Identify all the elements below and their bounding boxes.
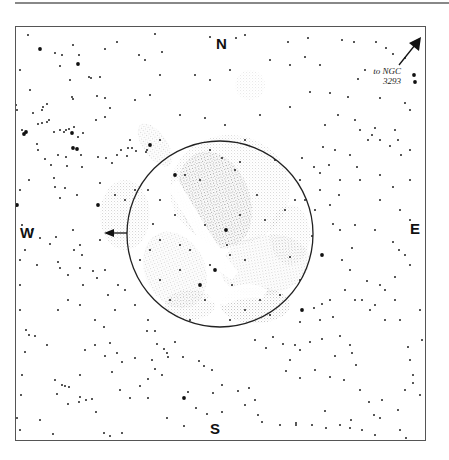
- star: [379, 97, 381, 99]
- star: [50, 164, 52, 166]
- star: [307, 37, 309, 39]
- star: [36, 264, 38, 266]
- star: [111, 162, 113, 164]
- star: [66, 165, 68, 167]
- star: [53, 177, 55, 179]
- star: [27, 34, 29, 36]
- star: [206, 413, 208, 415]
- star: [349, 427, 351, 429]
- star: [159, 139, 161, 141]
- star: [72, 229, 74, 231]
- star: [104, 97, 106, 99]
- star: [332, 316, 334, 318]
- star: [409, 179, 411, 181]
- star: [235, 37, 237, 39]
- star: [88, 76, 90, 78]
- star: [375, 41, 377, 43]
- star: [265, 347, 267, 349]
- star: [127, 147, 129, 149]
- star: [404, 389, 406, 391]
- star: [24, 351, 26, 353]
- star: [152, 223, 154, 225]
- star: [329, 299, 331, 301]
- star: [239, 161, 241, 163]
- star: [279, 294, 281, 296]
- star: [169, 299, 171, 301]
- star: [313, 307, 315, 309]
- star: [289, 106, 291, 108]
- star: [131, 147, 133, 149]
- star: [179, 244, 181, 246]
- star: [146, 149, 148, 151]
- star: [104, 116, 106, 118]
- star: [349, 154, 351, 156]
- star: [229, 319, 231, 321]
- nebula-patch: [270, 205, 310, 265]
- star: [289, 359, 291, 361]
- star: [354, 119, 356, 121]
- star: [37, 123, 39, 125]
- star: [37, 149, 39, 151]
- star: [309, 341, 311, 343]
- star: [174, 214, 176, 216]
- star: [282, 343, 284, 345]
- star: [198, 360, 200, 362]
- star: [107, 294, 109, 296]
- star: [124, 199, 126, 201]
- west-label: W: [20, 224, 34, 241]
- star: [121, 432, 123, 434]
- star: [329, 204, 331, 206]
- star: [90, 77, 92, 79]
- star: [379, 139, 381, 141]
- star: [384, 319, 386, 321]
- star: [129, 397, 131, 399]
- star: [138, 54, 140, 56]
- star: [76, 62, 80, 66]
- star: [103, 326, 105, 328]
- star: [134, 304, 136, 306]
- star: [95, 119, 97, 121]
- nebula-patch: [100, 180, 150, 250]
- star: [295, 424, 297, 426]
- star: [16, 109, 18, 111]
- north-label: N: [216, 35, 227, 52]
- star: [409, 264, 411, 266]
- star: [289, 64, 291, 66]
- star: [69, 79, 71, 81]
- star: [319, 189, 321, 191]
- star: [351, 247, 353, 249]
- star: [36, 143, 38, 145]
- star: [379, 417, 381, 419]
- star: [159, 199, 161, 201]
- star: [159, 239, 161, 241]
- star: [134, 99, 136, 101]
- star: [371, 134, 373, 136]
- star: [367, 139, 369, 141]
- star: [359, 179, 361, 181]
- star: [147, 378, 149, 380]
- star: [99, 182, 101, 184]
- star: [329, 376, 331, 378]
- star: [259, 299, 261, 301]
- star: [46, 121, 48, 123]
- star: [299, 349, 301, 351]
- star: [353, 41, 355, 43]
- star: [209, 79, 211, 81]
- star: [194, 74, 196, 76]
- star: [146, 330, 148, 332]
- star: [32, 112, 34, 114]
- star: [404, 102, 406, 104]
- star: [114, 194, 116, 196]
- star: [145, 151, 147, 153]
- star: [381, 399, 383, 401]
- star: [351, 352, 353, 354]
- star: [19, 309, 21, 311]
- star: [147, 189, 149, 191]
- star: [109, 435, 111, 437]
- star: [81, 254, 83, 256]
- star: [204, 299, 206, 301]
- star: [332, 223, 334, 225]
- star: [257, 414, 259, 416]
- star: [328, 164, 330, 166]
- star: [161, 374, 163, 376]
